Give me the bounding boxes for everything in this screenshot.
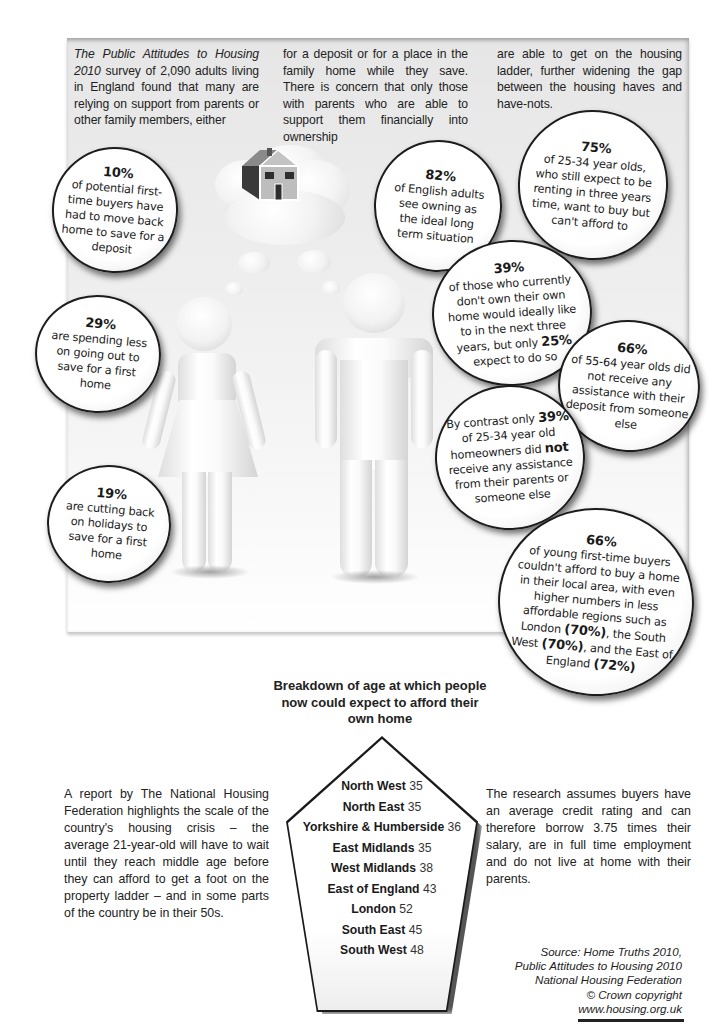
source-url: www.housing.org.uk bbox=[480, 1002, 682, 1016]
region-item: East of England 43 bbox=[282, 879, 482, 900]
region-item: London 52 bbox=[282, 899, 482, 920]
intro-column-1: The Public Attitudes to Housing 2010 sur… bbox=[74, 46, 259, 129]
region-item: East Midlands 35 bbox=[282, 838, 482, 859]
region-item: Yorkshire & Humberside 36 bbox=[282, 817, 482, 838]
house-icon bbox=[238, 148, 302, 208]
intro-column-3: are able to get on the housing ladder, f… bbox=[497, 46, 682, 112]
region-item: South West 48 bbox=[282, 940, 482, 961]
region-item: North East 35 bbox=[282, 797, 482, 818]
research-assumptions-text: The research assumes buyers have an aver… bbox=[486, 786, 691, 888]
breakdown-title: Breakdown of age at which people now cou… bbox=[270, 678, 490, 728]
source-credit: Source: Home Truths 2010, Public Attitud… bbox=[480, 945, 682, 1016]
region-item: West Midlands 38 bbox=[282, 858, 482, 879]
divider-rule bbox=[578, 1019, 684, 1022]
region-age-list: North West 35 North East 35 Yorkshire & … bbox=[282, 776, 482, 961]
region-item: South East 45 bbox=[282, 920, 482, 941]
region-item: North West 35 bbox=[282, 776, 482, 797]
report-summary-text: A report by The National Housing Federat… bbox=[64, 786, 269, 922]
intro-column-2: for a deposit or for a place in the fami… bbox=[283, 46, 468, 146]
